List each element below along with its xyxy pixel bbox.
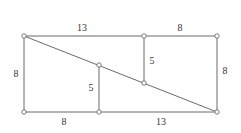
label-top-left: 13 (77, 22, 87, 33)
edge-diagonal (24, 36, 217, 112)
node-f (215, 110, 219, 114)
label-right: 8 (223, 65, 228, 76)
label-bottom-right: 13 (156, 116, 166, 127)
node-c (215, 34, 219, 38)
node-a (22, 34, 26, 38)
node-d (22, 110, 26, 114)
edges (24, 36, 217, 112)
node-g (97, 63, 101, 67)
rectangle-dissection-diagram: 13 8 8 8 8 13 5 5 (0, 0, 241, 133)
node-e (97, 110, 101, 114)
label-inner-upper: 5 (150, 55, 155, 66)
node-h (142, 81, 146, 85)
label-top-right: 8 (178, 22, 183, 33)
label-bottom-left: 8 (62, 116, 67, 127)
label-left: 8 (14, 68, 19, 79)
node-b (142, 34, 146, 38)
label-inner-lower: 5 (89, 82, 94, 93)
